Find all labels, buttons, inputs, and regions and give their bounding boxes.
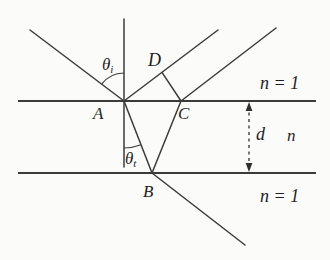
diagram-svg: θi D n = 1 A C d n θt B n = 1 xyxy=(0,0,330,260)
thickness-label: d xyxy=(256,124,266,144)
reflected-ray xyxy=(124,30,218,101)
theta-i-label: θi xyxy=(102,55,113,75)
transmitted-ray-b xyxy=(152,173,245,245)
thickness-arrow-down-icon xyxy=(246,163,253,172)
segment-dc xyxy=(162,72,181,101)
theta-t-label: θt xyxy=(125,149,137,169)
theta-t-arc xyxy=(124,145,141,148)
index-slab-label: n xyxy=(287,126,296,145)
point-c-label: C xyxy=(178,104,190,123)
point-a-label: A xyxy=(92,104,104,123)
internal-ray-bc xyxy=(152,101,181,173)
point-d-label: D xyxy=(147,50,161,70)
thickness-arrow-up-icon xyxy=(246,102,253,111)
index-top-label: n = 1 xyxy=(260,73,299,93)
index-bottom-label: n = 1 xyxy=(260,186,299,206)
slab-refraction-diagram: θi D n = 1 A C d n θt B n = 1 xyxy=(0,0,330,260)
point-b-label: B xyxy=(143,182,154,201)
